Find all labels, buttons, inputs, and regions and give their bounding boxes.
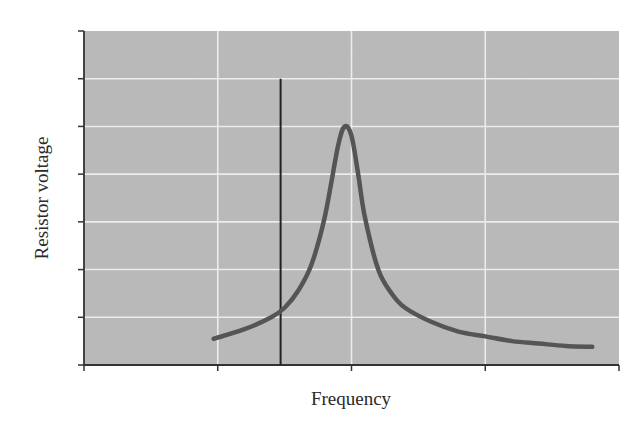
resonance-chart [0,0,643,436]
y-axis-label: Resistor voltage [31,137,53,260]
x-axis-label: Frequency [311,388,391,410]
